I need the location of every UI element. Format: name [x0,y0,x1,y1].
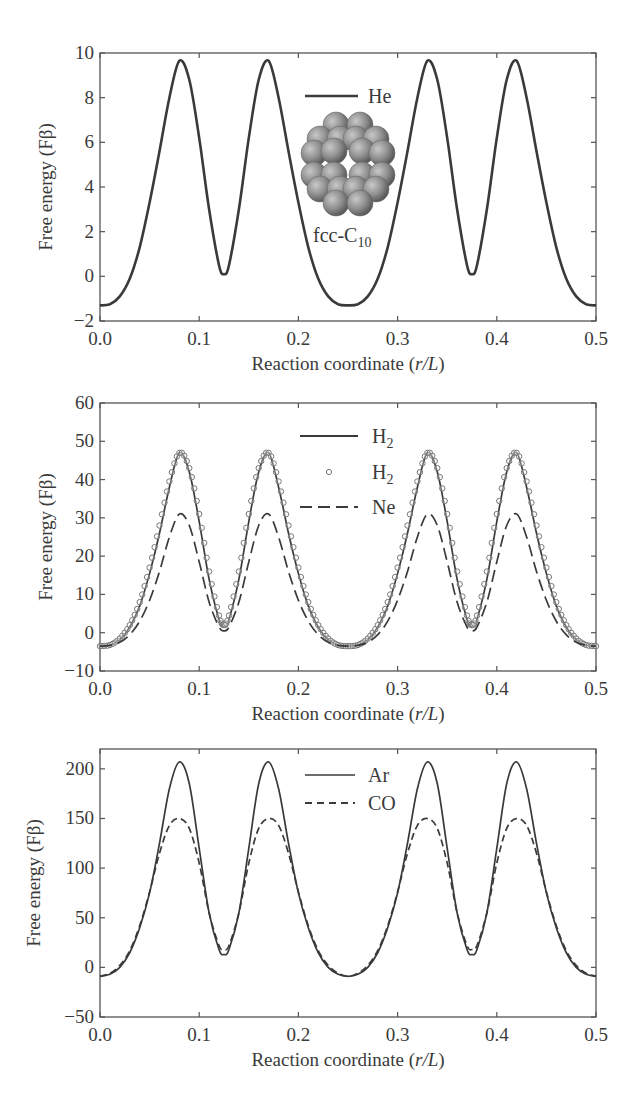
data-marker [288,534,293,539]
data-marker [390,583,395,588]
x-axis-label: Reaction coordinate (r/L) [251,703,444,725]
data-marker [137,599,142,604]
data-marker [392,574,397,579]
data-marker [214,605,219,610]
data-marker [554,599,559,604]
data-marker [192,486,197,491]
data-marker [415,479,420,484]
data-marker [194,498,199,503]
data-marker [306,599,311,604]
data-marker [182,453,187,458]
x-axis-label: Reaction coordinate (r/L) [251,1049,444,1071]
data-marker [140,592,145,597]
data-marker [499,486,504,491]
legend-label-ne: Ne [372,496,395,518]
data-marker [529,500,534,505]
data-marker [256,465,261,470]
x-tick-label: 0.0 [88,678,112,699]
data-marker [154,534,159,539]
data-marker [531,512,536,517]
data-marker [225,618,230,623]
data-marker [397,555,402,560]
data-marker [504,465,509,470]
data-marker [231,594,236,599]
x-axis-ticks: 0.00.10.20.30.40.5 [88,749,608,1045]
y-axis-label: Free energy (Fβ) [35,123,57,251]
panel-ar-co: −50050100150200 0.00.10.20.30.40.5 Free … [23,749,608,1071]
data-marker [460,594,465,599]
panel-he: −20246810 0.00.10.20.30.40.5 Free energy… [35,42,608,375]
data-marker [519,461,524,466]
data-marker [541,555,546,560]
data-marker [281,500,286,505]
data-marker [251,486,256,491]
data-marker [241,540,246,545]
x-tick-label: 0.0 [88,328,112,349]
data-marker [536,534,541,539]
y-tick-label: 8 [85,87,95,108]
data-marker [420,461,425,466]
fcc-c10-molecule-inset [301,112,395,216]
data-marker [412,489,417,494]
data-marker [407,512,412,517]
data-marker [157,523,162,528]
x-tick-label: 0.3 [386,1024,410,1045]
y-tick-label: 4 [85,176,95,197]
legend-label-ar: Ar [368,764,389,786]
data-marker [187,465,192,470]
x-tick-label: 0.4 [485,678,509,699]
data-marker [450,540,455,545]
data-marker [432,458,437,463]
curves [97,450,598,649]
data-marker [435,465,440,470]
data-marker [254,474,259,479]
data-marker [199,525,204,530]
series-line-h2 [100,452,596,646]
plot-frame [100,403,596,671]
data-marker [296,565,301,570]
series-line-ne [100,514,596,646]
y-tick-label: 100 [66,857,95,878]
data-marker [206,569,211,574]
legend-label-h2-circles: H2 [372,461,393,487]
data-marker [410,500,415,505]
data-marker [184,458,189,463]
data-marker [226,613,231,618]
curves [100,762,596,976]
data-marker [447,525,452,530]
data-marker [144,574,149,579]
data-marker [234,582,239,587]
data-marker [549,583,554,588]
legend: He [305,85,391,107]
data-marker [405,523,410,528]
data-marker [487,555,492,560]
legend: H2 H2 Ne [300,425,395,518]
data-marker [442,498,447,503]
y-tick-label: 200 [66,758,95,779]
y-tick-label: 6 [85,131,95,152]
data-marker [298,574,303,579]
data-marker [452,555,457,560]
atom-sphere [323,190,349,216]
data-marker [492,525,497,530]
y-axis-label: Free energy (Fβ) [35,473,57,601]
x-tick-label: 0.2 [287,328,311,349]
data-marker [189,474,194,479]
data-marker [464,613,469,618]
x-tick-label: 0.5 [584,328,608,349]
data-marker [383,606,388,611]
data-marker [476,605,481,610]
series-line-co [100,818,596,976]
data-marker [559,612,564,617]
data-marker [204,555,209,560]
x-tick-label: 0.3 [386,328,410,349]
x-tick-label: 0.4 [485,1024,509,1045]
data-marker [149,555,154,560]
legend-marker-h2-circle [326,469,331,474]
data-marker [400,545,405,550]
data-marker [291,545,296,550]
y-axis-ticks: −50050100150200 [64,758,596,1027]
data-marker [440,486,445,491]
y-tick-label: 0 [85,265,95,286]
data-marker [507,458,512,463]
